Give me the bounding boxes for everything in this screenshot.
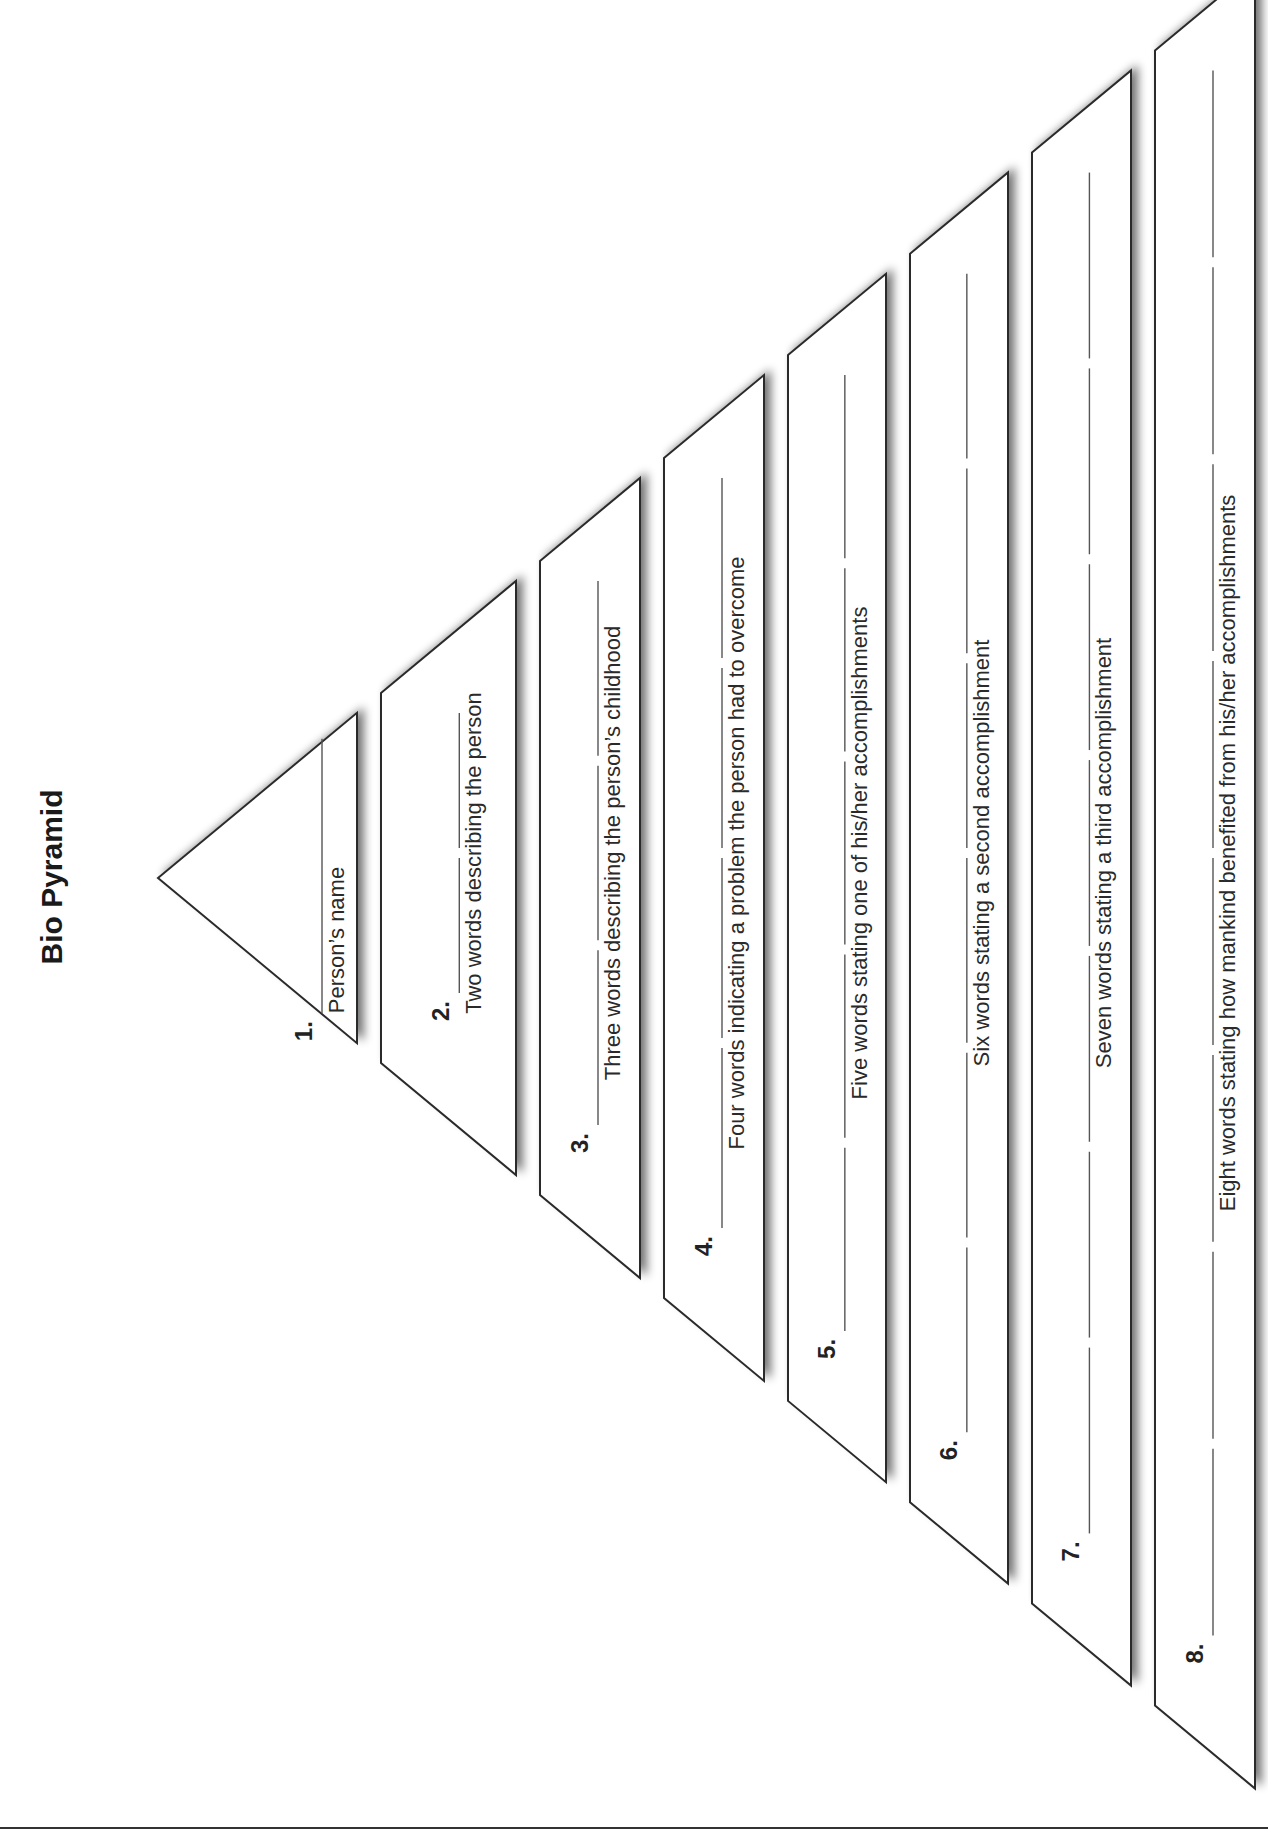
row-number: 7. [1057,1541,1084,1561]
row-prompt: Person’s name [324,867,349,1013]
row-number: 6. [935,1440,962,1460]
row-prompt: Three words describing the person’s chil… [600,626,625,1081]
pyramid-row-3: 3.Three words describing the person’s ch… [540,478,640,1278]
bio-pyramid-diagram: Bio Pyramid 1.Person’s name2.Two words d… [0,0,1268,1832]
pyramid-row-2: 2.Two words describing the person [381,581,516,1175]
row-prompt: Eight words stating how mankind benefite… [1215,495,1240,1212]
row-prompt: Six words stating a second accomplishmen… [969,640,994,1067]
page-title: Bio Pyramid [35,789,68,964]
row-prompt: Two words describing the person [461,692,486,1014]
pyramid-band [540,478,640,1278]
pyramid-rows: 1.Person’s name2.Two words describing th… [158,0,1255,1789]
row-number: 3. [566,1133,593,1153]
row-prompt: Five words stating one of his/her accomp… [847,607,872,1100]
pyramid-band [381,581,516,1175]
pyramid-row-5: 5.Five words stating one of his/her acco… [788,274,886,1482]
row-number: 4. [690,1236,717,1256]
pyramid-row-8: 8.Eight words stating how mankind benefi… [1155,0,1255,1789]
pyramid-row-7: 7.Seven words stating a third accomplish… [1032,70,1131,1685]
pyramid-row-1: 1.Person’s name [158,713,357,1043]
pyramid-band [664,375,764,1381]
worksheet-page: Bio Pyramid 1.Person’s name2.Two words d… [0,0,1268,1832]
pyramid-band [1155,0,1255,1789]
row-prompt: Four words indicating a problem the pers… [724,556,749,1149]
row-number: 1. [290,1021,317,1041]
row-number: 5. [813,1339,840,1359]
row-number: 2. [427,1001,454,1021]
row-number: 8. [1181,1644,1208,1664]
pyramid-row-4: 4.Four words indicating a problem the pe… [664,375,764,1381]
row-prompt: Seven words stating a third accomplishme… [1091,638,1116,1068]
pyramid-row-6: 6.Six words stating a second accomplishm… [910,173,1008,1584]
